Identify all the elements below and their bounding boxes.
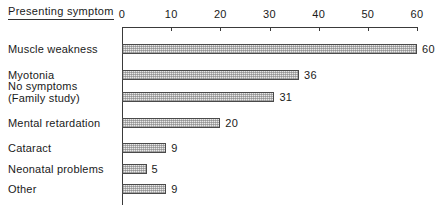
bar-value-label: 31 xyxy=(279,91,292,103)
x-axis-tick xyxy=(270,28,271,31)
category-label: Muscle weakness xyxy=(8,43,98,55)
x-axis-tick-label: 40 xyxy=(312,8,325,20)
x-axis-tick xyxy=(319,28,320,31)
x-axis-tick xyxy=(220,28,221,31)
bar-value-label: 9 xyxy=(171,183,177,195)
bar xyxy=(122,92,274,102)
bar xyxy=(122,143,166,153)
bar-value-label: 20 xyxy=(225,117,238,129)
bar-value-label: 5 xyxy=(152,163,158,175)
x-axis-tick-label: 30 xyxy=(263,8,276,20)
category-column-title: Presenting symptom xyxy=(8,5,114,20)
bar xyxy=(122,164,147,174)
bar-value-label: 60 xyxy=(422,43,435,55)
x-axis-tick-label: 10 xyxy=(165,8,178,20)
bar xyxy=(122,70,299,80)
bar-chart: Presenting symptom 0102030405060 Muscle … xyxy=(0,0,437,220)
x-axis-tick xyxy=(122,28,123,31)
category-label: Other xyxy=(8,183,37,195)
x-axis-tick xyxy=(368,28,369,31)
category-label-line2: (Family study) xyxy=(8,92,80,104)
bar xyxy=(122,44,417,54)
bar-value-label: 36 xyxy=(304,69,317,81)
bar xyxy=(122,184,166,194)
x-axis-tick-label: 20 xyxy=(214,8,227,20)
category-label: No symptoms(Family study) xyxy=(8,80,80,104)
x-axis-tick xyxy=(417,28,418,31)
category-label: Neonatal problems xyxy=(8,163,104,175)
bar-value-label: 9 xyxy=(171,142,177,154)
category-label-line1: No symptoms xyxy=(8,80,80,92)
x-axis-tick xyxy=(171,28,172,31)
x-axis-tick-label: 0 xyxy=(119,8,125,20)
category-label: Cataract xyxy=(8,142,51,154)
category-label: Mental retardation xyxy=(8,117,100,129)
x-axis-tick-label: 60 xyxy=(411,8,424,20)
x-axis-tick-label: 50 xyxy=(361,8,374,20)
bar xyxy=(122,118,220,128)
